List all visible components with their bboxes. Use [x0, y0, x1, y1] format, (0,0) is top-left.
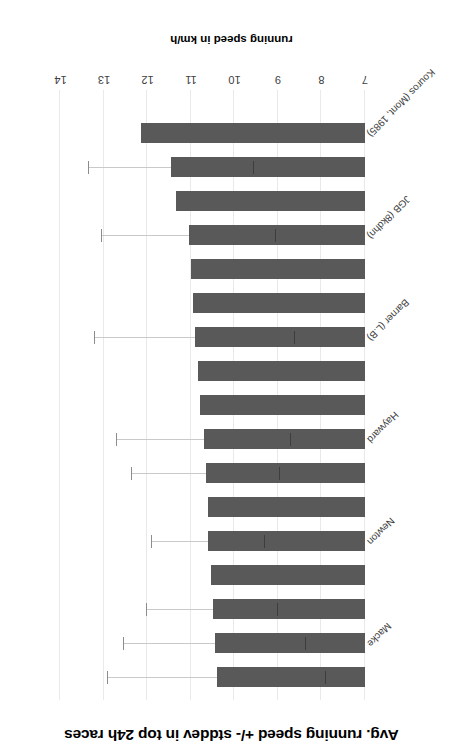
error-bar-line [89, 167, 172, 168]
x-axis-title: running speed in km/h [0, 34, 463, 46]
error-bar-cap-inner [290, 433, 291, 446]
error-bar-cap [107, 671, 108, 684]
bar [176, 191, 365, 211]
error-bar-cap [116, 433, 117, 446]
error-bar-cap [147, 603, 148, 616]
error-bar-cap-inner [305, 637, 306, 650]
bar-row [0, 252, 463, 286]
bar-row [0, 320, 463, 354]
bar [200, 395, 365, 415]
bar [211, 565, 365, 585]
x-tick-label: 14 [46, 74, 76, 86]
error-bar-cap-inner [264, 535, 265, 548]
error-bar-cap [88, 161, 89, 174]
x-tick-label: 10 [220, 74, 250, 86]
bar-row [0, 354, 463, 388]
bar [208, 497, 365, 517]
error-bar-line [117, 439, 204, 440]
bar-row [0, 524, 463, 558]
error-bar-line [102, 235, 189, 236]
chart-figure-rotator: Avg. running speed +/- stddev in top 24h… [0, 0, 463, 752]
bar [198, 361, 365, 381]
bar [213, 599, 365, 619]
error-bar-line [132, 473, 206, 474]
error-bar-line [148, 609, 213, 610]
bar-row [0, 218, 463, 252]
bar [204, 429, 365, 449]
error-bar-cap [151, 535, 152, 548]
bar-chart-figure: Avg. running speed +/- stddev in top 24h… [0, 0, 463, 752]
bar [206, 463, 365, 483]
bar-row [0, 184, 463, 218]
bar-row [0, 626, 463, 660]
bar [208, 531, 365, 551]
error-bar-cap [123, 637, 124, 650]
bar-row [0, 286, 463, 320]
x-tick-label: 8 [307, 74, 337, 86]
bar-row [0, 150, 463, 184]
x-tick-label: 11 [176, 74, 206, 86]
bar-row [0, 490, 463, 524]
x-tick-label: 9 [263, 74, 293, 86]
bar [215, 633, 365, 653]
bar-row [0, 592, 463, 626]
x-tick-label: 7 [350, 74, 380, 86]
error-bar-cap [131, 467, 132, 480]
x-tick-label: 13 [89, 74, 119, 86]
error-bar-cap-inner [277, 603, 278, 616]
error-bar-line [124, 643, 215, 644]
bar [141, 123, 365, 143]
bar [191, 259, 365, 279]
bar-row [0, 422, 463, 456]
bar [217, 667, 365, 687]
plot-area [0, 90, 463, 700]
error-bar-cap-inner [279, 467, 280, 480]
bar [171, 157, 365, 177]
error-bar-line [108, 677, 217, 678]
error-bar-cap-inner [253, 161, 254, 174]
error-bar-line [152, 541, 209, 542]
bar-row [0, 388, 463, 422]
bar-row [0, 116, 463, 150]
error-bar-line [95, 337, 195, 338]
bar-row [0, 558, 463, 592]
chart-title: Avg. running speed +/- stddev in top 24h… [0, 726, 463, 744]
error-bar-cap-inner [275, 229, 276, 242]
x-tick-label: 12 [133, 74, 163, 86]
bar-row [0, 456, 463, 490]
bar [193, 293, 365, 313]
bar [189, 225, 365, 245]
error-bar-cap [101, 229, 102, 242]
error-bar-cap-inner [325, 671, 326, 684]
x-axis-tick-labels: 7891011121314 [0, 60, 463, 90]
bar [195, 327, 365, 347]
error-bar-cap [94, 331, 95, 344]
error-bar-cap-inner [294, 331, 295, 344]
bar-row [0, 660, 463, 694]
